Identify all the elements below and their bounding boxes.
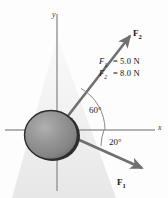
force-diagram: x y F2 F1 60° 20° F1 = 5.0 N F2 = 8.0 N <box>0 0 168 198</box>
legend-symbol-f1: F1 <box>99 56 111 68</box>
vector-label-f2: F2 <box>133 29 142 40</box>
vector-label-f1-subscript: 1 <box>123 182 126 189</box>
legend-equals-f1: = <box>111 56 120 66</box>
vector-label-f1: F1 <box>117 178 126 189</box>
legend-symbol-f2-subscript: 2 <box>104 74 107 80</box>
legend-value-f1: 5.0 N <box>120 56 140 66</box>
x-axis-label: x <box>158 124 162 132</box>
legend-equals-f2: = <box>111 68 120 78</box>
magnitude-legend: F1 = 5.0 N F2 = 8.0 N <box>99 56 140 80</box>
legend-row-f2: F2 = 8.0 N <box>99 68 140 80</box>
legend-value-f2: 8.0 N <box>120 68 140 78</box>
y-axis-label: y <box>52 11 56 19</box>
arc-20 <box>101 130 104 146</box>
angle-label-20: 20° <box>109 138 122 147</box>
legend-symbol-f1-subscript: 1 <box>104 62 107 68</box>
legend-row-f1: F1 = 5.0 N <box>99 56 140 68</box>
legend-symbol-f2: F2 <box>99 68 111 80</box>
vector-label-f2-subscript: 2 <box>139 33 142 40</box>
sphere-object <box>25 111 81 162</box>
angle-label-60: 60° <box>89 106 102 115</box>
